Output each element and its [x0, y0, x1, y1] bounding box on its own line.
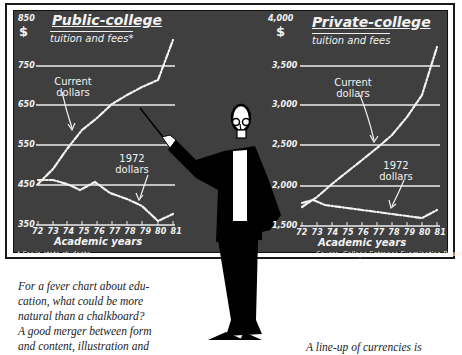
caption-left-line: and content, illustration and — [18, 339, 149, 354]
right-ytick: 3,500 — [272, 61, 297, 70]
caption-left-line: For a fever chart about edu- — [18, 279, 149, 294]
left-ytick: 450 — [18, 180, 35, 189]
caption-left-line: natural than a chalkboard? — [18, 309, 144, 324]
professor-figure — [140, 105, 281, 340]
left-xtick: 78 — [124, 227, 136, 236]
left-ytick: 650 — [18, 100, 35, 109]
right-chart-title: Private-college — [312, 14, 431, 30]
right-xaxis-label: Academic years — [318, 237, 406, 248]
left-xtick: 79 — [140, 227, 152, 236]
right-ytick: 3,000 — [272, 100, 297, 109]
left-xaxis-label: Academic years — [54, 236, 142, 247]
right-xtick: 78 — [388, 228, 400, 237]
right-ytick-top: 4,000 — [268, 14, 293, 23]
right-xaxis-ticks: 72 73 74 75 76 77 78 79 80 81 — [296, 228, 446, 237]
right-xtick: 72 — [296, 228, 308, 237]
right-xtick: 76 — [358, 228, 370, 237]
left-xtick: 74 — [63, 227, 75, 236]
left-ytick: 550 — [18, 140, 35, 149]
left-xtick: 80 — [155, 227, 167, 236]
left-chart-subtitle: tuition and fees* — [50, 31, 133, 44]
left-xtick: 73 — [47, 227, 59, 236]
left-xtick: 77 — [109, 227, 121, 236]
right-xtick: 77 — [373, 228, 385, 237]
left-xtick: 76 — [94, 227, 106, 236]
right-xtick: 79 — [404, 228, 416, 237]
left-xtick: 75 — [78, 227, 90, 236]
right-xtick: 80 — [419, 228, 431, 237]
right-source-note: Source: College Entrance Examination Boa… — [316, 250, 462, 258]
right-ytick: 2,000 — [272, 181, 297, 190]
caption-right-line: A line-up of currencies is — [306, 340, 422, 355]
right-chart-subtitle: tuition and fees — [312, 33, 390, 46]
left-xtick: 81 — [170, 227, 182, 236]
right-annotation-current: Current dollars — [330, 77, 376, 99]
left-xtick: 72 — [32, 227, 44, 236]
left-currency-label: $ — [19, 24, 28, 39]
left-ytick-top: 850 — [18, 14, 35, 23]
left-annotation-current: Current dollars — [50, 76, 96, 98]
left-ytick: 750 — [18, 61, 35, 70]
right-xtick: 73 — [311, 228, 323, 237]
left-annotation-1972: 1972 dollars — [112, 153, 152, 175]
left-xaxis-ticks: 72 73 74 75 76 77 78 79 80 81 — [32, 227, 182, 236]
right-ytick: 2,500 — [272, 140, 297, 149]
left-chart-title: Public-college — [52, 12, 162, 28]
right-xtick: 81 — [434, 228, 446, 237]
caption-left-line: A good merger between form — [18, 324, 152, 339]
right-xtick: 75 — [342, 228, 354, 237]
right-currency-label: $ — [276, 24, 285, 39]
right-xtick: 74 — [327, 228, 339, 237]
right-ytick: 1,500 — [272, 221, 297, 230]
right-annotation-1972: 1972 dollars — [376, 160, 416, 182]
left-footnote: * For in-state students. — [17, 250, 92, 258]
caption-left-line: cation, what could be more — [18, 294, 143, 309]
